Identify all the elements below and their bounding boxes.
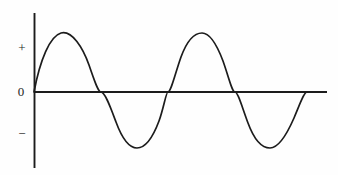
axis-label-zero: 0: [13, 85, 29, 98]
sine-wave-figure: + 0 −: [0, 0, 338, 175]
sine-wave-curve: [34, 33, 307, 148]
axis-label-negative: −: [14, 127, 30, 140]
axis-label-positive: +: [14, 41, 30, 54]
plot-canvas: [0, 0, 338, 175]
